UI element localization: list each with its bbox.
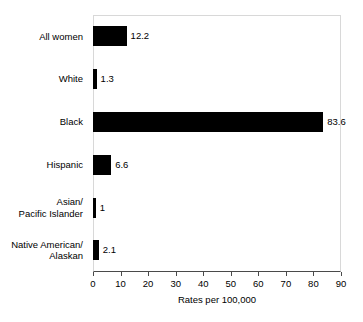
x-axis-tick-label: 30 bbox=[164, 278, 188, 289]
category-label: Asian/ Pacific Islander bbox=[0, 196, 83, 219]
x-axis-tick bbox=[121, 272, 122, 276]
bar-container: 6.6 bbox=[93, 155, 128, 175]
table-row: White 1.3 bbox=[0, 58, 363, 101]
x-axis-tick-label: 70 bbox=[274, 278, 298, 289]
bar-chart: All women 12.2 White 1.3 Black 83.6 Hisp… bbox=[0, 0, 363, 322]
bar bbox=[93, 26, 127, 46]
table-row: Hispanic 6.6 bbox=[0, 143, 363, 186]
bar bbox=[93, 240, 99, 260]
bar-container: 12.2 bbox=[93, 26, 149, 46]
bar-container: 1.3 bbox=[93, 69, 114, 89]
bar-rows: All women 12.2 White 1.3 Black 83.6 Hisp… bbox=[0, 15, 363, 272]
bar bbox=[93, 155, 111, 175]
x-axis-tick-label: 10 bbox=[109, 278, 133, 289]
x-axis-tick-label: 50 bbox=[219, 278, 243, 289]
x-axis-tick bbox=[148, 272, 149, 276]
table-row: Black 83.6 bbox=[0, 101, 363, 144]
x-axis-tick-label: 60 bbox=[246, 278, 270, 289]
x-axis-tick-label: 80 bbox=[301, 278, 325, 289]
bar bbox=[93, 112, 323, 132]
x-axis-tick bbox=[341, 272, 342, 276]
x-axis: 0 10 20 30 40 50 60 70 80 90 Rates per 1… bbox=[93, 272, 341, 322]
category-label: White bbox=[0, 73, 83, 85]
category-label: Black bbox=[0, 116, 83, 128]
bar-value-label: 6.6 bbox=[115, 160, 128, 170]
bar-value-label: 83.6 bbox=[327, 117, 346, 127]
x-axis-tick-label: 40 bbox=[191, 278, 215, 289]
bar-container: 83.6 bbox=[93, 112, 346, 132]
bar-value-label: 1.3 bbox=[101, 74, 114, 84]
table-row: All women 12.2 bbox=[0, 15, 363, 58]
category-label: Hispanic bbox=[0, 159, 83, 171]
bar-container: 2.1 bbox=[93, 240, 116, 260]
x-axis-tick bbox=[313, 272, 314, 276]
category-label: All women bbox=[0, 31, 83, 43]
category-label: Native American/ Alaskan bbox=[0, 239, 83, 262]
x-axis-tick-label: 20 bbox=[136, 278, 160, 289]
bar-value-label: 12.2 bbox=[131, 31, 150, 41]
x-axis-tick bbox=[93, 272, 94, 276]
table-row: Asian/ Pacific Islander 1 bbox=[0, 186, 363, 229]
bar-container: 1 bbox=[93, 198, 105, 218]
x-axis-tick bbox=[286, 272, 287, 276]
x-axis-tick bbox=[176, 272, 177, 276]
x-axis-tick bbox=[203, 272, 204, 276]
x-axis-tick bbox=[258, 272, 259, 276]
table-row: Native American/ Alaskan 2.1 bbox=[0, 229, 363, 272]
x-axis-tick-label: 90 bbox=[329, 278, 353, 289]
bar bbox=[93, 198, 96, 218]
bar-value-label: 2.1 bbox=[103, 245, 116, 255]
x-axis-tick-label: 0 bbox=[81, 278, 105, 289]
bar bbox=[93, 69, 97, 89]
x-axis-tick bbox=[231, 272, 232, 276]
x-axis-title: Rates per 100,000 bbox=[93, 294, 341, 305]
bar-value-label: 1 bbox=[100, 203, 105, 213]
